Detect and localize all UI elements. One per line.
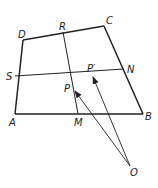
geometry-diagram: ABCDRSNMPP′O	[0, 0, 158, 188]
label-point-a: A	[8, 117, 16, 128]
arrow-o-to-p	[75, 91, 130, 166]
arrow-o-to-p-prime	[93, 77, 130, 166]
segment-d-a	[15, 40, 23, 114]
label-point-r: R	[59, 21, 66, 32]
label-point-s: S	[6, 71, 13, 82]
label-point-c: C	[106, 15, 113, 26]
label-point-p: P	[64, 83, 71, 94]
vector-arrows	[75, 77, 130, 166]
label-point-b: B	[145, 111, 152, 122]
label-point-n: N	[127, 64, 135, 75]
quadrilateral-and-lines	[15, 26, 143, 114]
label-point-m: M	[74, 117, 83, 128]
label-point-p-prime: P′	[87, 63, 96, 74]
label-point-o: O	[130, 167, 138, 178]
label-point-d: D	[18, 29, 26, 40]
